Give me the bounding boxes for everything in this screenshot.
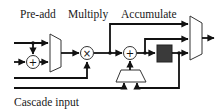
multiply-label: Multiply [68,8,109,21]
accumulate-adder: + [124,47,137,60]
accumulate-label: Accumulate [121,8,177,20]
input-a-wire [14,41,48,54]
output-mux [190,16,202,60]
plus-icon: + [126,48,134,59]
accumulate-mux [116,70,146,82]
cascade-input-wire [14,83,124,88]
accumulator-register [157,45,172,62]
cascade-input-label: Cascade input [14,96,80,109]
plus-icon: + [29,57,37,68]
multiply-icon: × [83,48,91,59]
preadd-adder: + [27,56,40,69]
dsp-datapath-diagram: Pre-add Multiply Accumulate Cascade inpu… [0,0,218,112]
preadd-mux [50,34,61,72]
multiplier: × [81,47,94,60]
preadd-label: Pre-add [20,8,56,20]
